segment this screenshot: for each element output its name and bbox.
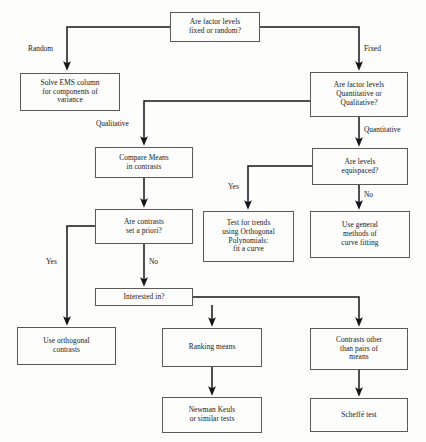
- edge-interested-contrasts: [193, 297, 359, 322]
- node-contrasts-set-a-priori[interactable]: Are contrasts set a priori?: [95, 209, 193, 244]
- edge-label-yes-a-priori: Yes: [46, 258, 57, 265]
- edge-label-random: Random: [28, 45, 53, 52]
- edge-yes-apriori: [67, 226, 95, 321]
- edge-random: [67, 27, 170, 66]
- edge-qualitative: [144, 101, 310, 141]
- edge-yes-equispaced: [248, 166, 312, 205]
- flowchart-canvas: Are factor levels fixed or random? Solve…: [0, 0, 426, 442]
- edge-label-no-a-priori: No: [149, 258, 158, 265]
- edge-label-yes-equispaced: Yes: [228, 183, 239, 190]
- node-contrasts-other-than-pairs[interactable]: Contrasts other than pairs of means: [310, 328, 408, 370]
- node-newman-keuls[interactable]: Newman Keuls or similar tests: [162, 397, 262, 433]
- node-factor-levels-fixed-random[interactable]: Are factor levels fixed or random?: [170, 12, 260, 42]
- node-compare-means-contrasts[interactable]: Compare Means in contrasts: [95, 147, 193, 178]
- edge-label-qualitative: Qualitative: [96, 120, 129, 127]
- node-use-general-methods[interactable]: Use general methods of curve fitting: [310, 211, 410, 258]
- node-use-orthogonal-contrasts[interactable]: Use orthogonal contrasts: [17, 327, 116, 365]
- node-interested-in[interactable]: Interested in?: [95, 288, 193, 306]
- node-scheffe-test[interactable]: Scheffé test: [310, 398, 408, 432]
- node-factor-levels-quant-qual[interactable]: Are factor levels Quantitative or Qualit…: [310, 72, 408, 117]
- edge-label-no-equispaced: No: [364, 191, 373, 198]
- edge-fixed: [260, 27, 359, 66]
- node-are-levels-equispaced[interactable]: Are levels equispaced?: [312, 148, 408, 185]
- node-test-for-trends[interactable]: Test for trends using Orthogonal Polynom…: [203, 211, 294, 262]
- edge-label-quantitative: Quantitative: [364, 126, 401, 133]
- node-ranking-means[interactable]: Ranking means: [162, 328, 262, 367]
- node-solve-ems-column[interactable]: Solve EMS column for components of varia…: [20, 73, 120, 111]
- edge-label-fixed: Fixed: [364, 45, 381, 52]
